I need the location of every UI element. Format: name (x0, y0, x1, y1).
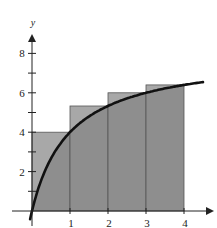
rectangle-4 (146, 85, 184, 211)
y-tick-label: 8 (19, 47, 25, 59)
y-tick-label: 2 (19, 166, 25, 178)
y-tick-label: 6 (19, 87, 25, 99)
y-tick-label: 4 (19, 126, 25, 138)
x-tick-label: 2 (106, 217, 112, 228)
x-tick-label: 3 (144, 217, 150, 228)
x-tick-label: 1 (68, 217, 74, 228)
riemann-sum-chart: 12342468y (0, 0, 217, 228)
riemann-rectangles (32, 85, 184, 211)
y-axis-label: y (30, 17, 36, 28)
rectangle-2 (70, 106, 108, 211)
rectangle-1 (32, 132, 70, 211)
rectangle-3 (108, 93, 146, 211)
x-tick-label: 4 (182, 217, 188, 228)
